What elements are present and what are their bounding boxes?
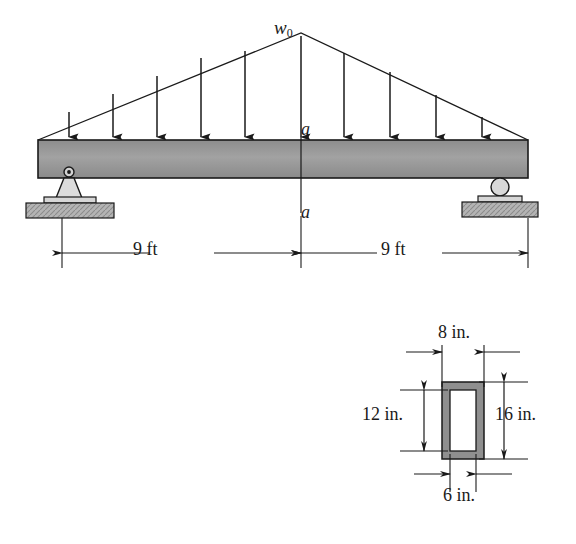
load-label-symbol: w <box>274 17 287 38</box>
section-label-top: a <box>301 120 310 138</box>
load-arrows <box>69 36 482 137</box>
outer-width-label: 8 in. <box>438 323 470 341</box>
load-label: w0 <box>274 18 293 39</box>
span-dimensions <box>62 216 528 268</box>
distributed-load-outline <box>38 33 528 140</box>
span-left-label: 9 ft <box>133 240 158 258</box>
figure-graphics <box>0 0 576 544</box>
inner-height-label: 12 in. <box>362 405 403 423</box>
inner-width-label: 6 in. <box>443 486 475 504</box>
span-right-label: 9 ft <box>381 240 406 258</box>
engineering-figure: w0 a a 9 ft 9 ft 8 in. 12 in. 16 in. 6 i… <box>0 0 576 544</box>
section-label-bottom: a <box>301 203 310 221</box>
outer-height-label: 16 in. <box>495 405 536 423</box>
beam-body <box>38 140 528 178</box>
cross-section-tube <box>442 382 484 459</box>
roller-support-right <box>462 178 538 217</box>
load-label-subscript: 0 <box>287 26 293 40</box>
